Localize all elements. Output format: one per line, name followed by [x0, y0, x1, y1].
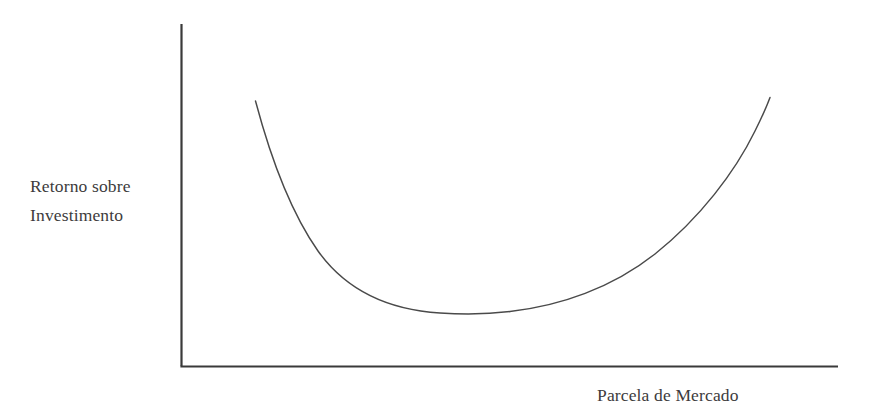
y-axis-label-line-2: Investimento — [30, 201, 131, 230]
roi-u-curve — [256, 98, 771, 314]
x-axis-label: Parcela de Mercado — [597, 381, 739, 407]
chart-figure: Retorno sobre Investimento Parcela de Me… — [0, 0, 886, 407]
y-axis-label-line-1: Retorno sobre — [30, 172, 131, 201]
plot-area — [0, 0, 886, 407]
y-axis-label: Retorno sobre Investimento — [30, 172, 131, 230]
